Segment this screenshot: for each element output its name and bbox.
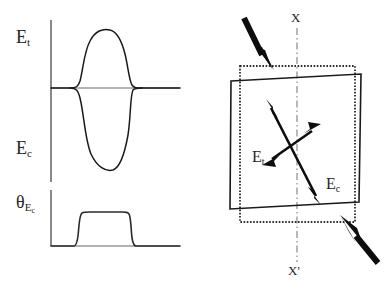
- field-vector-Et-arrow: [266, 99, 321, 205]
- field-vector-Ec-arrow: [262, 122, 321, 167]
- waveform-upper-lobe: [51, 29, 180, 88]
- right-panel-group: [230, 18, 378, 263]
- applied-force-arrow-top: [244, 18, 274, 70]
- label-vector-Ec: Ec: [326, 176, 340, 194]
- theta-pulse-curve: [51, 212, 180, 246]
- label-Et-axis: Et: [16, 28, 30, 48]
- label-axis-X: X: [291, 11, 300, 24]
- waveform-lower-lobe: [70, 88, 142, 170]
- left-panel-group: [51, 20, 180, 246]
- label-Ec-axis: Ec: [16, 139, 32, 159]
- label-vector-Et: Et: [252, 149, 265, 167]
- applied-force-arrow-bottom: [340, 215, 378, 263]
- figure-root: Et Ec θEc X X' Et Ec: [0, 0, 386, 294]
- diagram-canvas: [0, 0, 386, 294]
- label-axis-X-prime: X': [288, 264, 300, 277]
- label-theta-Ec-axis: θEc: [16, 193, 35, 215]
